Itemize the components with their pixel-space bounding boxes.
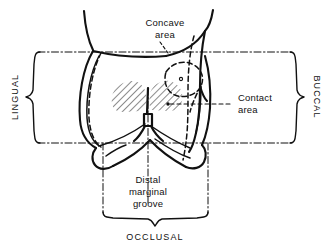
groove-label-line1: Distal (136, 174, 161, 185)
callout-contact-area: Contact area (238, 92, 272, 115)
groove-label-line3: groove (133, 198, 163, 209)
lingual-root-stroke (84, 11, 93, 50)
buccal-cusp-upper-ridge (151, 126, 190, 148)
callout-concave-area: Concave area (146, 17, 185, 40)
lingual-bracket (26, 52, 40, 143)
fossa-hatch-right (140, 70, 200, 125)
groove-label-line2: marginal (129, 186, 167, 197)
axis-label-buccal: BUCCAL (312, 75, 322, 118)
buccal-bracket (290, 52, 304, 143)
concave-area-dot (179, 77, 182, 80)
central-pit-spine (147, 88, 148, 114)
lingual-cusp-outer-ridge (113, 140, 150, 166)
axis-label-lingual: LINGUAL (10, 74, 20, 120)
callout-distal-marginal-groove: Distal marginal groove (129, 174, 167, 209)
hatched-fossa-area (100, 70, 200, 125)
concave-label-line2: area (155, 29, 175, 40)
contact-label-line1: Contact (238, 92, 272, 103)
tooth-anatomy-figure: LINGUAL BUCCAL OCCLUSAL (0, 0, 330, 249)
contact-area-dot (166, 102, 169, 105)
buccal-hidden-wall (183, 36, 194, 160)
concave-area-leader (160, 42, 168, 53)
occlusal-bracket (103, 212, 208, 226)
concave-label-line1: Concave (146, 17, 185, 28)
buccal-root-stroke (205, 10, 213, 31)
contact-label-line2: area (238, 104, 258, 115)
buccal-lower-corner (186, 145, 206, 168)
lingual-cusp-ridge-mark (106, 145, 126, 156)
diagram-canvas: LINGUAL BUCCAL OCCLUSAL (0, 0, 330, 249)
axis-label-occlusal: OCCLUSAL (126, 232, 183, 242)
